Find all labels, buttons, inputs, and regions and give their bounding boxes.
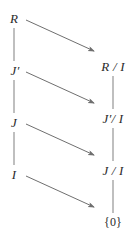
node-label-J-prime-mod-I: J′/ I	[103, 112, 124, 125]
node-label-J: J	[11, 116, 17, 129]
node-label-R-mod-I: R / I	[101, 60, 124, 73]
lattice-diagram: R J′ J I R / I J′/ I J / I {0}	[0, 0, 136, 243]
arrow-R-to-RI	[26, 20, 94, 51]
node-label-R: R	[10, 12, 18, 25]
node-label-I: I	[12, 168, 17, 181]
arrow-J-to-JI	[26, 124, 94, 155]
node-label-zero-ideal: {0}	[104, 216, 122, 228]
arrow-I-to-zero	[26, 176, 94, 207]
arrow-Jp-to-JpI	[26, 72, 94, 103]
node-label-J-prime: J′	[10, 64, 19, 77]
node-label-J-mod-I: J / I	[102, 164, 123, 177]
